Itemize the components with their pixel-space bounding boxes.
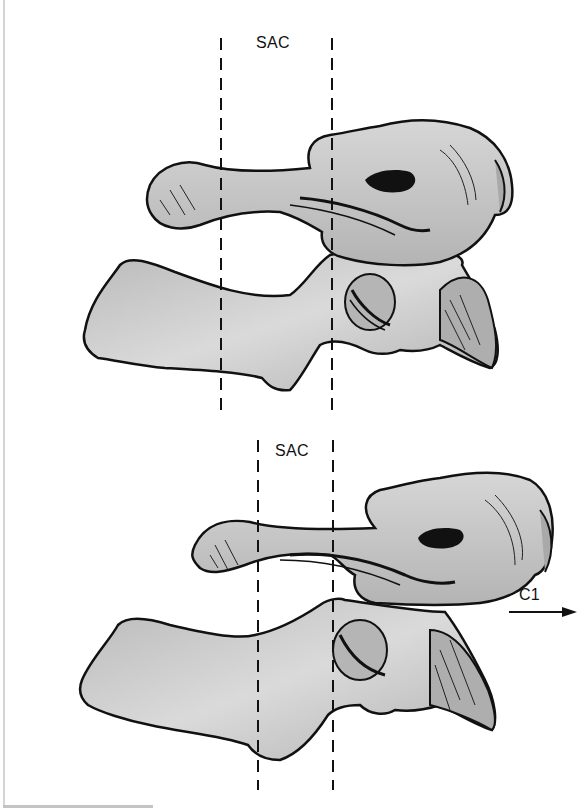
arrow-right-icon	[509, 607, 577, 617]
vertebrae-diagram	[0, 0, 587, 809]
bottom-panel	[80, 440, 577, 790]
c2-facet-bottom	[333, 620, 387, 680]
c1-arrow-label: C1	[519, 586, 540, 604]
top-panel	[84, 38, 512, 412]
sac-label-bottom: SAC	[275, 442, 309, 460]
c2-vertebra-top	[84, 249, 498, 390]
sac-label-top: SAC	[256, 34, 290, 52]
c1-vertebra-bottom	[192, 473, 552, 605]
c1-vertebra-top	[147, 120, 513, 265]
